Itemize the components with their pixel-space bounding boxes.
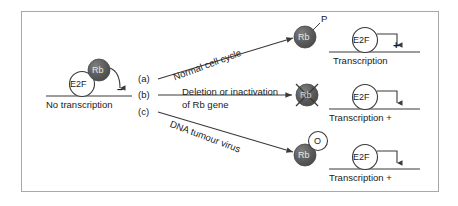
branch-label-c: (c) <box>138 107 149 117</box>
outcome-a-rb-label: Rb <box>298 33 310 42</box>
outcome-c-rb-label: Rb <box>298 151 310 160</box>
outcome-b-e2f-label: E2F <box>353 93 370 102</box>
outcome-c-group <box>294 132 420 170</box>
left-e2f-label: E2F <box>70 80 87 89</box>
outcome-a-e2f-label: E2F <box>353 36 370 45</box>
outcome-b-rb-label: Rb <box>300 91 312 100</box>
outcome-c-caption: Transcription + <box>329 173 392 183</box>
left-minus-sign: – <box>117 84 123 95</box>
pathway-b-label-line2: of Rb gene <box>182 100 228 110</box>
figure-container: E2F Rb – No transcription (a) (b) (c) No… <box>0 0 458 206</box>
outcome-a-plus-sign: + <box>393 40 399 51</box>
pathway-b-label-line1: Deletion or inactivation <box>182 87 278 97</box>
outcome-a-caption: Transcription <box>333 56 388 66</box>
left-rb-label: Rb <box>92 66 104 75</box>
branch-label-b: (b) <box>138 90 150 100</box>
outcome-a-phosphate-label: P <box>321 14 327 24</box>
no-transcription-caption: No transcription <box>46 100 113 110</box>
outcome-c-e2f-label: E2F <box>353 153 370 162</box>
branch-label-a: (a) <box>138 74 150 84</box>
outcome-b-caption: Transcription + <box>329 113 392 123</box>
outcome-c-oncoprotein-label: O <box>314 137 321 146</box>
